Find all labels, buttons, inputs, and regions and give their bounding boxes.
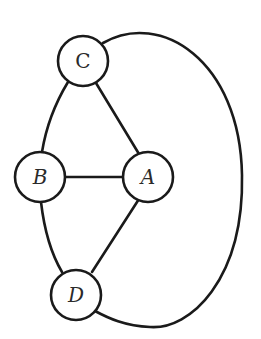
edge-b-d	[41, 202, 62, 272]
node-a: A	[123, 152, 173, 202]
node-c-label: C	[75, 49, 90, 73]
edge-c-a	[96, 83, 139, 154]
node-b-label: B	[32, 165, 48, 189]
node-b: B	[15, 152, 65, 202]
edge-a-d	[92, 199, 139, 272]
graph-diagram: C B A D	[0, 0, 261, 339]
node-a-label: A	[139, 165, 155, 189]
node-d-label: D	[67, 283, 84, 307]
edge-c-b	[42, 82, 68, 152]
node-c: C	[58, 36, 108, 86]
node-d: D	[51, 270, 101, 320]
